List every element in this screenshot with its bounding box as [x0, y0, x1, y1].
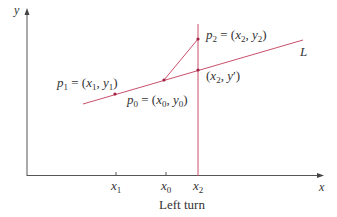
x-axis-arrow-icon	[317, 173, 324, 178]
diagram-caption: Left turn	[159, 197, 205, 212]
y-axis-arrow-icon	[25, 8, 30, 15]
label-x2-yprime: (x2, y′)	[206, 68, 240, 85]
x-axis-label: x	[318, 180, 325, 194]
label-p2: p2 = (x2, y2)	[205, 27, 267, 44]
segment-p0-p2	[164, 39, 198, 80]
point-p2	[196, 37, 199, 40]
point-p0	[162, 78, 165, 81]
point-p1	[113, 92, 116, 95]
point-x2-yprime	[196, 68, 199, 71]
tick-label-x2: x2	[192, 178, 203, 195]
label-p0: p0 = (x0, y0)	[126, 92, 188, 109]
tick-label-x1: x1	[110, 178, 121, 195]
label-p1: p1 = (x1, y1)	[56, 75, 118, 92]
line-L-label: L	[299, 44, 307, 59]
y-axis-label: y	[13, 3, 20, 17]
left-turn-diagram: y x L p1 = (x1, y1) p0 = (x0, y0) p2 = (…	[0, 0, 337, 217]
tick-label-x0: x0	[160, 178, 172, 195]
